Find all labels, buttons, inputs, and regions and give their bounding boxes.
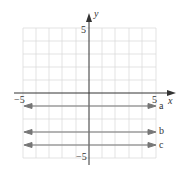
arrow-right-icon — [148, 143, 156, 148]
x-axis-label: x — [168, 96, 172, 106]
line-b — [24, 130, 156, 135]
arrow-left-icon — [24, 143, 32, 148]
arrow-right-icon — [148, 130, 156, 135]
y-axis-arrow-icon — [86, 13, 92, 22]
arrow-left-icon — [24, 130, 32, 135]
x-min-tick: −5 — [14, 95, 25, 105]
y-max-tick: 5 — [81, 25, 86, 35]
line-c-label: c — [159, 140, 163, 150]
y-axis-label: y — [94, 9, 98, 19]
y-axis — [86, 13, 92, 165]
arrow-left-icon — [24, 104, 32, 109]
y-min-tick: −5 — [76, 152, 87, 162]
line-a — [24, 104, 156, 109]
x-max-tick: 5 — [152, 95, 157, 105]
coordinate-plane — [0, 0, 182, 177]
line-a-label: a — [159, 101, 163, 111]
line-b-label: b — [159, 126, 164, 136]
line-c — [24, 143, 156, 148]
